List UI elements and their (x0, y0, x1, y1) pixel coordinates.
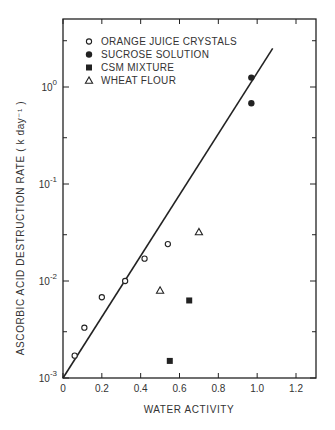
data-point (72, 353, 77, 358)
legend-marker-icon (86, 39, 91, 44)
y-tick-label: 10-2 (39, 272, 58, 287)
chart-canvas: 00.20.40.60.81.01.210-310-210-1100 ORANG… (0, 0, 335, 430)
data-point (142, 256, 147, 261)
legend-marker-icon (86, 65, 92, 71)
regression-line (63, 48, 273, 378)
y-axis-title: ASCORBIC ACID DESTRUCTION RATE ( k day⁻¹… (15, 101, 26, 355)
data-point (99, 295, 104, 300)
data-point (156, 287, 163, 293)
x-tick-label: 0.4 (134, 383, 148, 394)
legend-label: ORANGE JUICE CRYSTALS (101, 36, 237, 47)
y-tick-label: 100 (41, 78, 57, 93)
data-point (248, 74, 254, 80)
data-point (165, 242, 170, 247)
x-tick-label: 0.6 (173, 383, 187, 394)
x-axis-title: WATER ACTIVITY (144, 404, 235, 415)
x-tick-label: 0 (60, 383, 66, 394)
data-point (167, 358, 173, 364)
axis-ticks: 00.20.40.60.81.01.210-310-210-1100 (39, 19, 316, 394)
data-point (123, 278, 128, 283)
y-tick-label: 10-3 (39, 369, 58, 384)
data-point (248, 100, 254, 106)
series-wheat-flour (156, 228, 202, 293)
legend-label: WHEAT FLOUR (101, 75, 176, 86)
x-tick-label: 1.0 (250, 383, 264, 394)
legend-marker-icon (85, 77, 92, 83)
y-tick-label: 10-1 (39, 175, 58, 190)
fit-line (63, 48, 273, 378)
data-point (195, 228, 202, 234)
legend-marker-icon (86, 51, 92, 57)
x-tick-label: 0.2 (95, 383, 109, 394)
series-csm-mixture (167, 297, 192, 363)
legend: ORANGE JUICE CRYSTALSSUCROSE SOLUTIONCSM… (85, 36, 237, 86)
series-sucrose-solution (248, 74, 254, 106)
legend-item: SUCROSE SOLUTION (86, 49, 209, 60)
legend-label: SUCROSE SOLUTION (101, 49, 209, 60)
legend-item: ORANGE JUICE CRYSTALS (86, 36, 237, 47)
data-point (82, 325, 87, 330)
data-point (186, 297, 192, 303)
x-tick-label: 0.8 (211, 383, 225, 394)
legend-label: CSM MIXTURE (101, 62, 174, 73)
legend-item: CSM MIXTURE (86, 62, 174, 73)
x-tick-label: 1.2 (289, 383, 303, 394)
legend-item: WHEAT FLOUR (85, 75, 176, 86)
